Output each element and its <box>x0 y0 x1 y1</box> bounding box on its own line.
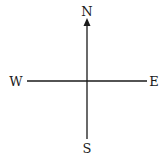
south-label: S <box>83 142 92 155</box>
east-label: E <box>149 75 159 88</box>
west-label: W <box>9 75 22 88</box>
compass-lines <box>0 0 160 157</box>
north-label: N <box>81 5 92 18</box>
north-arrow-icon <box>84 18 91 26</box>
compass-diagram: N W E S <box>0 0 160 157</box>
